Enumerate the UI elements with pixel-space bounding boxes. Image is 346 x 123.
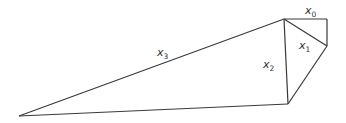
label-x3: x3 bbox=[156, 46, 169, 61]
triangle-diagram: x0 x1 x2 x3 bbox=[0, 0, 346, 123]
edge-x2-vertical bbox=[284, 19, 288, 104]
label-x1: x1 bbox=[298, 39, 311, 54]
edge-bottom bbox=[19, 104, 288, 116]
edge-x3 bbox=[19, 19, 284, 116]
label-x0: x0 bbox=[304, 4, 317, 19]
edge-lower-right bbox=[288, 46, 327, 104]
label-x2: x2 bbox=[262, 58, 275, 73]
